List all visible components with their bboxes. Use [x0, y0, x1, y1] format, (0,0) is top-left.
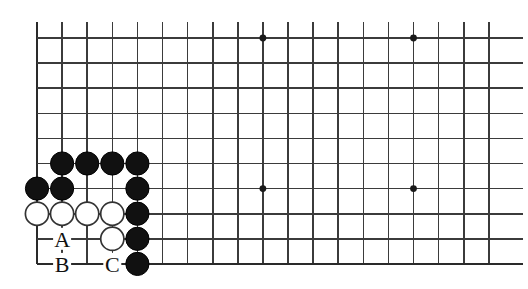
black-stone-14	[126, 252, 149, 275]
go-board-diagram: ABC	[0, 0, 528, 289]
black-stone-0	[51, 152, 74, 175]
point-label-b: B	[55, 252, 70, 277]
white-stone-9	[76, 202, 99, 225]
star-point-0	[260, 35, 267, 42]
black-stone-1	[76, 152, 99, 175]
black-stone-5	[51, 177, 74, 200]
point-label-a: A	[54, 227, 70, 252]
black-stone-13	[126, 227, 149, 250]
star-point-2	[260, 185, 267, 192]
go-board-svg: ABC	[0, 0, 528, 289]
black-stone-6	[126, 177, 149, 200]
black-stone-3	[126, 152, 149, 175]
white-stone-12	[101, 227, 124, 250]
black-stone-4	[25, 177, 48, 200]
white-stone-10	[101, 202, 124, 225]
black-stone-2	[101, 152, 124, 175]
star-point-1	[410, 35, 417, 42]
star-point-3	[410, 185, 417, 192]
white-stone-8	[51, 202, 74, 225]
black-stone-11	[126, 202, 149, 225]
white-stone-7	[25, 202, 48, 225]
point-label-c: C	[105, 252, 120, 277]
